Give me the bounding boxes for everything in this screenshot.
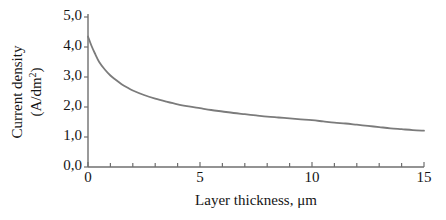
y-axis-title-unit: (A/dm: [28, 77, 45, 116]
y-tick-label: 5,0: [63, 7, 82, 23]
x-tick-label: 15: [417, 169, 432, 185]
y-axis-title-close: ): [28, 67, 45, 72]
current-density-line-chart: Current density (A/dm2) 5,0 4,0 3,0 2,0 …: [0, 0, 446, 220]
x-tick-label: 5: [196, 169, 204, 185]
y-tick-label: 2,0: [63, 97, 82, 113]
x-axis-title: Layer thickness, μm: [195, 192, 317, 208]
chart-figure: Current density (A/dm2) 5,0 4,0 3,0 2,0 …: [0, 0, 446, 220]
y-tick-label: 1,0: [63, 127, 82, 143]
y-axis-title-line1: Current density: [9, 45, 25, 138]
y-tick-label: 3,0: [63, 67, 82, 83]
x-tick-label: 10: [305, 169, 320, 185]
y-tick-label: 0,0: [63, 157, 82, 173]
x-tick-label: 0: [84, 169, 92, 185]
y-tick-label: 4,0: [63, 37, 82, 53]
